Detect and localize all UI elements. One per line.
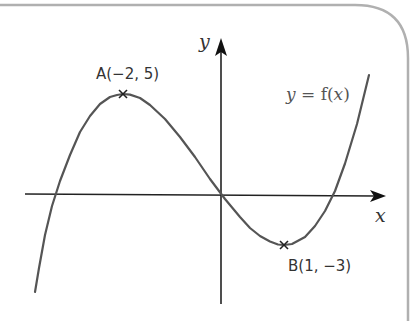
y-axis bbox=[215, 38, 227, 304]
x-axis-label: x bbox=[375, 204, 386, 226]
curve-label-x: x bbox=[334, 84, 344, 104]
point-b-label: B(1, −3) bbox=[288, 257, 351, 275]
curve-label-eq: = f( bbox=[296, 84, 334, 104]
curve-label-y: y bbox=[285, 84, 296, 104]
curve-label-close: ) bbox=[343, 84, 350, 104]
y-axis-label: y bbox=[198, 30, 210, 52]
point-a-label: A(−2, 5) bbox=[96, 65, 159, 83]
cubic-graph-figure: x y A(−2, 5) B(1, −3) y = f(x) bbox=[0, 0, 419, 321]
curve-label: y = f(x) bbox=[285, 84, 350, 104]
